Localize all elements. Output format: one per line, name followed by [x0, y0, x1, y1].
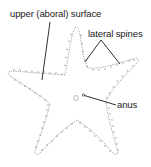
upper-surface-leader: [42, 22, 50, 80]
label-upper-surface: upper (aboral) surface: [10, 9, 101, 19]
lateral-spines-leader: [85, 40, 120, 64]
starfish-outline: [8, 27, 138, 155]
starfish-diagram: upper (aboral) surface lateral spines an…: [0, 0, 151, 167]
label-anus: anus: [117, 100, 137, 110]
starfish-figure: [0, 0, 151, 167]
anus-leader: [85, 96, 117, 106]
label-lateral-spines: lateral spines: [88, 29, 143, 39]
anus-marker: [82, 94, 84, 96]
madreporite: [74, 96, 79, 101]
lateral-spines-group: [14, 34, 134, 152]
